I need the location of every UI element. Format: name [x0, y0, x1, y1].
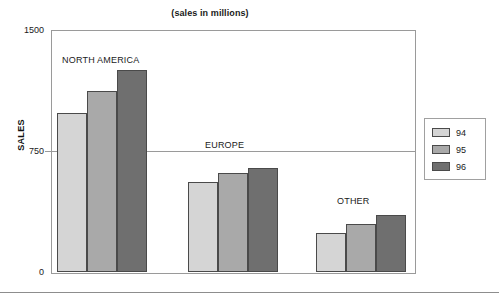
- bar-chart: (sales in millions) SALES 1500 750 0 NOR…: [0, 0, 499, 299]
- group-label-other: OTHER: [337, 196, 370, 206]
- legend-label-95: 95: [456, 145, 466, 155]
- bar-europe-96: [248, 168, 278, 272]
- bar-north-america-96: [117, 70, 147, 272]
- y-axis-tick-label-0: 0: [4, 267, 44, 277]
- legend-item[interactable]: 94: [432, 124, 485, 141]
- bar-north-america-94: [57, 113, 87, 272]
- legend-label-96: 96: [456, 162, 466, 172]
- group-label-europe: EUROPE: [205, 140, 244, 150]
- group-label-north-america: NORTH AMERICA: [62, 55, 139, 65]
- y-axis-tick-label-1500: 1500: [4, 25, 44, 35]
- legend-swatch-95: [432, 145, 450, 154]
- legend-item[interactable]: 95: [432, 141, 485, 158]
- y-axis-tick-label-750: 750: [4, 146, 44, 156]
- bar-other-96: [376, 215, 406, 272]
- legend-item[interactable]: 96: [432, 158, 485, 175]
- legend-swatch-94: [432, 128, 450, 137]
- bar-europe-94: [188, 182, 218, 272]
- bar-europe-95: [218, 173, 248, 272]
- footer-divider: [0, 292, 499, 293]
- legend-swatch-96: [432, 162, 450, 171]
- legend-label-94: 94: [456, 128, 466, 138]
- legend: 94 95 96: [424, 118, 486, 180]
- bar-other-94: [316, 233, 346, 272]
- bar-other-95: [346, 224, 376, 272]
- y-axis-title: SALES: [16, 105, 26, 165]
- chart-title: (sales in millions): [0, 8, 420, 18]
- bar-north-america-95: [87, 91, 117, 272]
